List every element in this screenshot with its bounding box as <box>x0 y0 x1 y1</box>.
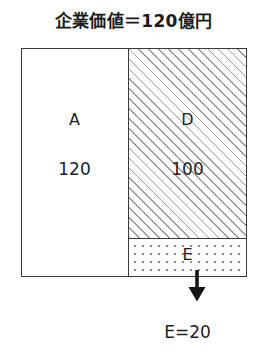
cell-e-letter: E <box>128 245 247 264</box>
cell-d-value: 100 <box>128 159 247 179</box>
cell-d-letter: D <box>128 110 247 129</box>
cell-a-letter: A <box>21 110 128 129</box>
cell-d-region <box>129 49 246 239</box>
down-arrow-icon <box>188 270 206 302</box>
enterprise-value-diagram: 企業価値＝120億円 A 120 D 100 E E=20 <box>0 0 267 363</box>
cell-a-value: 120 <box>21 159 128 179</box>
diagram-title: 企業価値＝120億円 <box>0 7 267 32</box>
arrow-caption: E=20 <box>128 322 247 342</box>
